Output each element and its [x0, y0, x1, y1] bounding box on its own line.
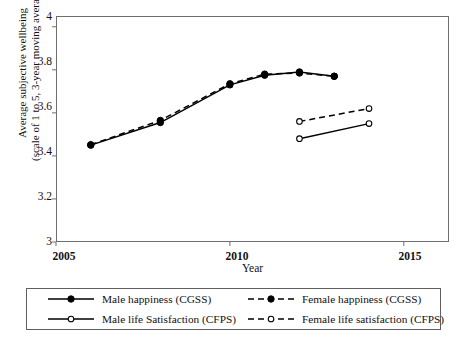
- legend-entry-male-happiness: Male happiness (CGSS): [27, 293, 241, 305]
- legend-entry-male-life-satisfaction: Male life Satisfaction (CFPS): [27, 313, 241, 325]
- dashed-filled-circle-icon: [247, 293, 295, 305]
- solid-hollow-circle-icon: [47, 313, 95, 325]
- legend-label: Male life Satisfaction (CFPS): [102, 313, 236, 325]
- legend-label: Male happiness (CGSS): [102, 293, 211, 305]
- y-axis-title-line1: Average subjective wellbeing: [16, 0, 29, 188]
- legend-label: Female life satisfaction (CFPS): [302, 313, 444, 325]
- x-axis-title: Year: [56, 262, 449, 274]
- y-tick-label: 3.2: [38, 191, 52, 203]
- x-tick-2015: 2015: [378, 250, 442, 262]
- y-tick-label: 3: [46, 236, 52, 248]
- plot-area-frame: [56, 16, 449, 242]
- x-tick-2005: 2005: [32, 250, 96, 262]
- y-tick-3: 3: [0, 236, 52, 248]
- x-tick-2010: 2010: [205, 250, 269, 262]
- legend-entry-female-happiness: Female happiness (CGSS): [241, 293, 442, 305]
- y-tick-3.2: 3.2: [0, 191, 52, 203]
- y-tick-label: 4: [46, 11, 52, 23]
- y-axis-title-line2: (scale of 1 to 5, 3-year moving average): [29, 0, 42, 188]
- solid-filled-circle-icon: [47, 293, 95, 305]
- legend-label: Female happiness (CGSS): [302, 293, 421, 305]
- legend-entry-female-life-satisfaction: Female life satisfaction (CFPS): [241, 313, 442, 325]
- chart-figure: 4 3.8 3.6 3.4 3.2 3 2005 2010 2015 Avera…: [0, 0, 465, 341]
- y-axis-title: Average subjective wellbeing (scale of 1…: [16, 0, 42, 188]
- chart-legend: Male happiness (CGSS) Female happiness (…: [26, 288, 441, 330]
- dashed-hollow-circle-icon: [247, 313, 295, 325]
